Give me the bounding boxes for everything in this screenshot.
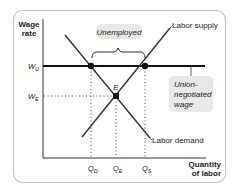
point-qs-wu (142, 63, 148, 69)
labor-supply-label: Labor supply (172, 21, 218, 30)
point-equilibrium-e (113, 93, 119, 99)
labor-demand-label: Labor demand (152, 136, 204, 145)
x-axis-label-line1: Quantity (189, 160, 222, 169)
y-axis-label-line1: Wage (18, 20, 40, 29)
equilibrium-label: E (113, 83, 119, 92)
union-wage-label-line1: Union- (174, 80, 198, 89)
unemployed-label: Unemployed (97, 28, 142, 37)
x-axis-label-line2: of labor (192, 169, 221, 178)
union-wage-label-line3: wage (174, 100, 194, 109)
point-qd-wu (88, 63, 94, 69)
chart-figure: Wage rate Quantity of labor E Unemployed… (0, 0, 248, 194)
y-axis-label-line2: rate (22, 29, 37, 38)
union-wage-label-line2: negotiated (174, 90, 212, 99)
